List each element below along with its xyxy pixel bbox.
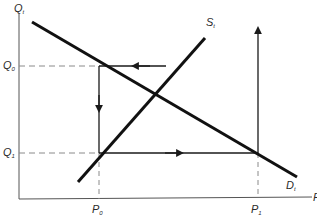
- p1-label-sub: 1: [258, 210, 261, 216]
- supply-label-sub: t: [213, 23, 215, 29]
- q0-label-sub: 0: [12, 66, 15, 72]
- y-axis-label: Qt: [14, 3, 24, 15]
- q0-label: Q0: [3, 60, 15, 72]
- p0-label: P0: [92, 204, 103, 216]
- y-axis-label-main: Q: [14, 2, 23, 14]
- demand-curve-label: Dt: [286, 180, 296, 192]
- demand-curve: [32, 22, 297, 177]
- q1-label-main: Q: [3, 146, 12, 158]
- p1-label: P1: [251, 204, 262, 216]
- supply-curve-label: St: [206, 17, 215, 29]
- q1-label: Q1: [3, 147, 15, 159]
- q1-label-sub: 1: [12, 153, 15, 159]
- x-axis: [19, 197, 312, 199]
- cobweb-diagram: [0, 0, 317, 217]
- demand-label-sub: t: [294, 186, 296, 192]
- p0-label-sub: 0: [99, 210, 102, 216]
- demand-label-main: D: [286, 179, 294, 191]
- q0-label-main: Q: [3, 59, 12, 71]
- y-axis-label-sub: t: [23, 9, 25, 15]
- x-axis-label-main: P: [313, 191, 317, 203]
- x-axis-label: P: [313, 192, 317, 203]
